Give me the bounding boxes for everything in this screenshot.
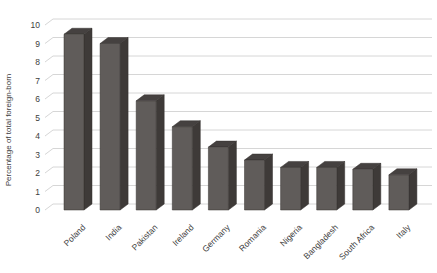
bar-front-face — [208, 147, 228, 210]
y-tick-label: 7 — [35, 76, 40, 86]
y-tick-label: 1 — [35, 187, 40, 197]
bar-side-face — [373, 163, 381, 210]
bar-romania — [245, 154, 273, 210]
bar-front-face — [64, 34, 84, 210]
bar-south-africa — [353, 163, 381, 210]
chart-container: 012345678910PolandIndiaPakistanIrelandGe… — [0, 0, 437, 273]
bar-side-face — [228, 141, 236, 210]
bar-side-face — [265, 154, 273, 210]
bar-chart-3d: 012345678910PolandIndiaPakistanIrelandGe… — [0, 0, 437, 273]
bar-front-face — [317, 167, 337, 210]
bar-poland — [64, 28, 92, 210]
bar-india — [100, 38, 128, 211]
bar-italy — [389, 169, 417, 210]
y-tick-label: 0 — [35, 205, 40, 215]
bar-side-face — [409, 169, 417, 210]
bar-front-face — [100, 44, 120, 211]
bar-front-face — [136, 101, 156, 210]
bar-nigeria — [281, 161, 309, 210]
bar-bangladesh — [317, 161, 345, 210]
bar-side-face — [192, 121, 200, 210]
y-tick-label: 8 — [35, 57, 40, 67]
bar-front-face — [353, 169, 373, 210]
y-tick-label: 2 — [35, 168, 40, 178]
bar-front-face — [172, 127, 192, 210]
y-tick-label: 4 — [35, 131, 40, 141]
y-tick-label: 5 — [35, 113, 40, 123]
bar-side-face — [156, 95, 164, 210]
bar-side-face — [301, 161, 309, 210]
y-tick-label: 3 — [35, 150, 40, 160]
bar-side-face — [84, 28, 92, 210]
bar-front-face — [245, 160, 265, 210]
y-axis-title: Percentage of total foreign-born — [4, 74, 13, 187]
bar-side-face — [337, 161, 345, 210]
bar-ireland — [172, 121, 200, 210]
bar-side-face — [120, 38, 128, 211]
bar-pakistan — [136, 95, 164, 210]
y-tick-label: 6 — [35, 94, 40, 104]
y-tick-label: 9 — [35, 39, 40, 49]
bar-front-face — [281, 167, 301, 210]
y-tick-label: 10 — [31, 20, 41, 30]
bar-germany — [208, 141, 236, 210]
bar-front-face — [389, 175, 409, 210]
